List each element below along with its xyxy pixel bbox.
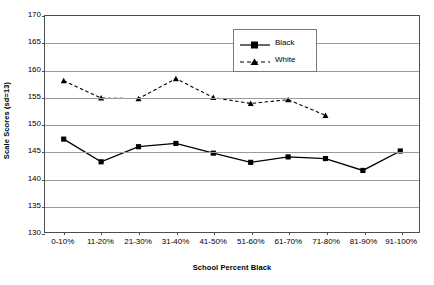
gridline [45,98,419,99]
y-axis-tick [42,16,45,17]
gridline [45,152,419,153]
y-axis-tick [42,43,45,44]
x-axis-tick-label: 91-100% [371,237,431,247]
line-chart: Scale Scores (sd=13) 1301351401451501551… [0,0,434,285]
y-axis-tick-label: 140 [15,175,41,183]
x-axis-tick [64,232,65,235]
y-axis-tick-label: 150 [15,120,41,128]
y-axis-tick [42,71,45,72]
data-point-white [323,112,329,117]
x-axis-title: School Percent Black [44,263,420,272]
y-axis-tick-label: 165 [15,38,41,46]
data-point-black [99,159,104,164]
gridline [45,43,419,44]
gridline [45,207,419,208]
y-axis-tick [42,234,45,235]
x-axis-tick-labels: 0-10%11-20%21-30%31-40%41-50%51-60%61-70… [0,237,434,251]
series-layer [45,16,419,232]
legend-key-square-solid-icon [239,37,271,49]
y-axis-tick [42,125,45,126]
data-point-black [323,156,328,161]
gridline [45,125,419,126]
y-axis-tick-label: 130 [15,229,41,237]
data-point-black [173,141,178,146]
series-line-black [64,139,401,170]
y-axis-title-text: Scale Scores (sd=13) [3,81,12,158]
gridline [45,71,419,72]
data-point-black [286,154,291,159]
legend-label-black: Black [275,38,295,47]
x-axis-tick [252,232,253,235]
y-axis-tick [42,152,45,153]
y-axis-tick-label: 145 [15,147,41,155]
y-axis-tick [42,180,45,181]
legend-item-white: White [234,51,316,68]
plot-area [44,15,420,233]
data-point-black [248,160,253,165]
x-axis-tick [289,232,290,235]
x-axis-tick [101,232,102,235]
x-axis-tick [402,232,403,235]
data-point-black [136,144,141,149]
x-axis-tick [365,232,366,235]
y-axis-tick-label: 135 [15,202,41,210]
data-point-white [61,78,67,83]
chart-legend: Black White [233,29,317,72]
legend-item-black: Black [234,34,316,51]
data-point-black [360,168,365,173]
y-axis-tick-label: 155 [15,93,41,101]
gridline [45,180,419,181]
x-axis-tick [214,232,215,235]
data-point-white [173,76,179,81]
y-axis-tick [42,207,45,208]
legend-key-triangle-dashed-icon [239,54,271,66]
x-axis-tick [139,232,140,235]
x-axis-tick [177,232,178,235]
data-point-black [61,137,66,142]
legend-label-white: White [275,55,295,64]
y-axis-tick [42,98,45,99]
x-axis-tick [327,232,328,235]
y-axis-tick-label: 160 [15,66,41,74]
y-axis-tick-label: 170 [15,11,41,19]
